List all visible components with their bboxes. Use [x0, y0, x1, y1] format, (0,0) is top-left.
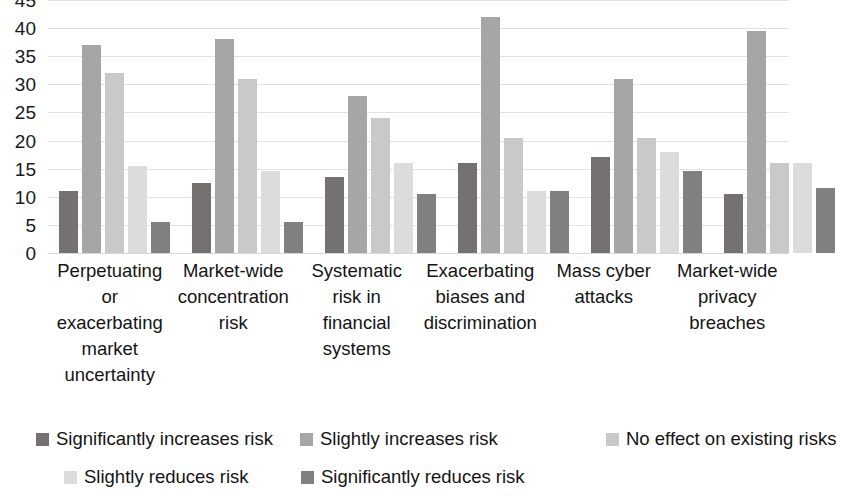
legend-swatch-icon	[606, 433, 619, 446]
axis-baseline	[48, 253, 789, 254]
gridline	[48, 84, 789, 85]
gridline	[48, 197, 789, 198]
category-label-line: breaches	[668, 310, 788, 336]
bar	[793, 163, 812, 253]
category-label-line: privacy	[668, 284, 788, 310]
y-axis: 454035302520151050	[0, 0, 42, 258]
gridline	[48, 56, 789, 57]
legend-swatch-icon	[64, 471, 77, 484]
category-label-line: Market-wide	[668, 258, 788, 284]
y-axis-tick-label: 45	[0, 0, 36, 10]
y-axis-tick-label: 10	[0, 188, 36, 207]
legend: Significantly increases riskSlightly inc…	[36, 418, 784, 494]
category-label-line: risk	[174, 310, 294, 336]
plot-area: 454035302520151050	[0, 0, 793, 258]
bar	[816, 188, 835, 253]
y-axis-tick-label: 40	[0, 19, 36, 38]
category-label-line: or	[50, 284, 170, 310]
y-axis-tick-label: 30	[0, 75, 36, 94]
gridline	[48, 169, 789, 170]
y-axis-tick-label: 35	[0, 47, 36, 66]
legend-swatch-icon	[300, 433, 313, 446]
category-label-line: Market-wide	[174, 258, 294, 284]
legend-item[interactable]: No effect on existing risks	[606, 422, 836, 456]
legend-item[interactable]: Significantly increases risk	[36, 422, 273, 456]
x-axis-category-label: Exacerbatingbiases anddiscrimination	[419, 258, 543, 410]
category-label-line: Mass cyber	[544, 258, 664, 284]
legend-label: Slightly reduces risk	[84, 466, 249, 488]
x-axis-category-labels: Perpetuatingorexacerbatingmarketuncertai…	[48, 258, 789, 410]
category-label-line: exacerbating	[50, 310, 170, 336]
legend-row-bottom: Slightly reduces riskSignificantly reduc…	[36, 460, 784, 494]
category-label-line: financial	[297, 310, 417, 336]
x-axis-category-label: Market-wideprivacybreaches	[666, 258, 790, 410]
category-label-line: uncertainty	[50, 362, 170, 388]
gridline	[48, 0, 789, 1]
legend-row-top: Significantly increases riskSlightly inc…	[36, 422, 784, 456]
legend-label: Significantly increases risk	[56, 428, 273, 450]
gridline	[48, 112, 789, 113]
gridlines	[48, 0, 789, 253]
x-axis-category-label: Systematicrisk infinancialsystems	[295, 258, 419, 410]
gridline	[48, 225, 789, 226]
y-axis-tick-label: 20	[0, 132, 36, 151]
category-label-line: biases and	[421, 284, 541, 310]
legend-item[interactable]: Slightly reduces risk	[64, 460, 249, 494]
y-axis-tick-label: 25	[0, 103, 36, 122]
gridline	[48, 28, 789, 29]
category-label-line: market	[50, 336, 170, 362]
gridline	[48, 141, 789, 142]
legend-swatch-icon	[301, 471, 314, 484]
x-axis-category-label: Perpetuatingorexacerbatingmarketuncertai…	[48, 258, 172, 410]
category-label-line: systems	[297, 336, 417, 362]
legend-item[interactable]: Significantly reduces risk	[301, 460, 525, 494]
category-label-line: concentration	[174, 284, 294, 310]
legend-label: No effect on existing risks	[626, 428, 836, 450]
y-axis-tick-label: 15	[0, 160, 36, 179]
y-axis-tick-label: 0	[0, 244, 36, 263]
legend-item[interactable]: Slightly increases risk	[300, 422, 498, 456]
x-axis-category-label: Market-wideconcentrationrisk	[172, 258, 296, 410]
x-axis-category-label: Mass cyberattacks	[542, 258, 666, 410]
category-label-line: attacks	[544, 284, 664, 310]
category-label-line: Perpetuating	[50, 258, 170, 284]
legend-label: Slightly increases risk	[320, 428, 498, 450]
y-axis-tick-label: 5	[0, 216, 36, 235]
legend-label: Significantly reduces risk	[321, 466, 525, 488]
category-label-line: discrimination	[421, 310, 541, 336]
category-label-line: risk in	[297, 284, 417, 310]
category-label-line: Exacerbating	[421, 258, 541, 284]
category-label-line: Systematic	[297, 258, 417, 284]
legend-swatch-icon	[36, 433, 49, 446]
